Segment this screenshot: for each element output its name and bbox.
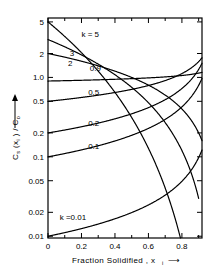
curve-label-k-2: 2 <box>68 59 73 68</box>
curve-label-k-5: k = 5 <box>81 30 99 39</box>
curve-label-k-0.01: k =0.01 <box>60 213 87 222</box>
y-tick-label: 2 <box>40 50 45 59</box>
x-tick-label: 0.8 <box>176 242 188 251</box>
y-axis-label-text: Cs (xi ) / Co <box>11 116 21 160</box>
curve-k-0.01 <box>48 150 202 236</box>
y-tick-label: 0.2 <box>33 129 45 138</box>
y-tick-label: 0.5 <box>33 97 45 106</box>
x-axis-arrow-icon: ⟶ <box>168 256 180 265</box>
curve-label-k-0.9: 0.9 <box>90 64 102 73</box>
scheil-segregation-chart: 00.20.40.60.8521.00.50.20.10.050.020.01k… <box>0 0 217 278</box>
x-tick-label: 0 <box>46 242 51 251</box>
y-tick-label: 1.0 <box>33 73 45 82</box>
x-axis-label: Fraction Solidified , xi⟶ <box>72 256 180 266</box>
curve-label-k-0.1: 0.1 <box>88 142 100 151</box>
curve-label-k-0.5: 0.5 <box>88 88 100 97</box>
y-tick-label: 0.1 <box>33 153 45 162</box>
y-tick-label: 5 <box>40 18 45 27</box>
curve-label-k-3: 3 <box>70 49 75 58</box>
y-axis-label: Cs (xi ) / Co <box>11 116 21 160</box>
y-tick-label: 0.01 <box>28 232 44 241</box>
x-tick-label: 0.6 <box>143 242 155 251</box>
x-tick-label: 0.4 <box>109 242 121 251</box>
y-tick-label: 0.02 <box>28 208 44 217</box>
x-tick-label: 0.2 <box>76 242 88 251</box>
x-axis-label-text: Fraction Solidified , x <box>72 256 155 265</box>
x-axis-label-subscript: i <box>162 260 163 266</box>
chart-figure: 00.20.40.60.8521.00.50.20.10.050.020.01k… <box>0 0 217 278</box>
curve-k-0.9 <box>48 72 202 81</box>
curve-label-k-0.2: 0.2 <box>88 119 100 128</box>
curve-k-0.2 <box>48 63 202 133</box>
y-tick-label: 0.05 <box>28 177 44 186</box>
